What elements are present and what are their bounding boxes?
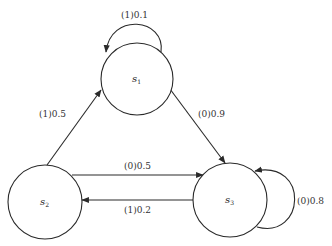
edge-label-s1-s3: (0)0.9 [198, 109, 225, 119]
edge-s1-s3 [170, 89, 225, 163]
edge-label-s3-s2: (1)0.2 [124, 205, 151, 215]
edge-label-s2-s3: (0)0.5 [124, 161, 151, 171]
edge-label-s3-s3: (0)0.8 [297, 196, 324, 206]
edge-label-s2-s1: (1)0.5 [39, 109, 66, 119]
edge-s2-s1 [47, 90, 101, 165]
edge-label-s1-s1: (1)0.1 [121, 10, 148, 20]
state-diagram: (1)0.1 (0)0.9 (1)0.5 (0)0.5 (1)0.2 (0)0.… [0, 0, 332, 246]
